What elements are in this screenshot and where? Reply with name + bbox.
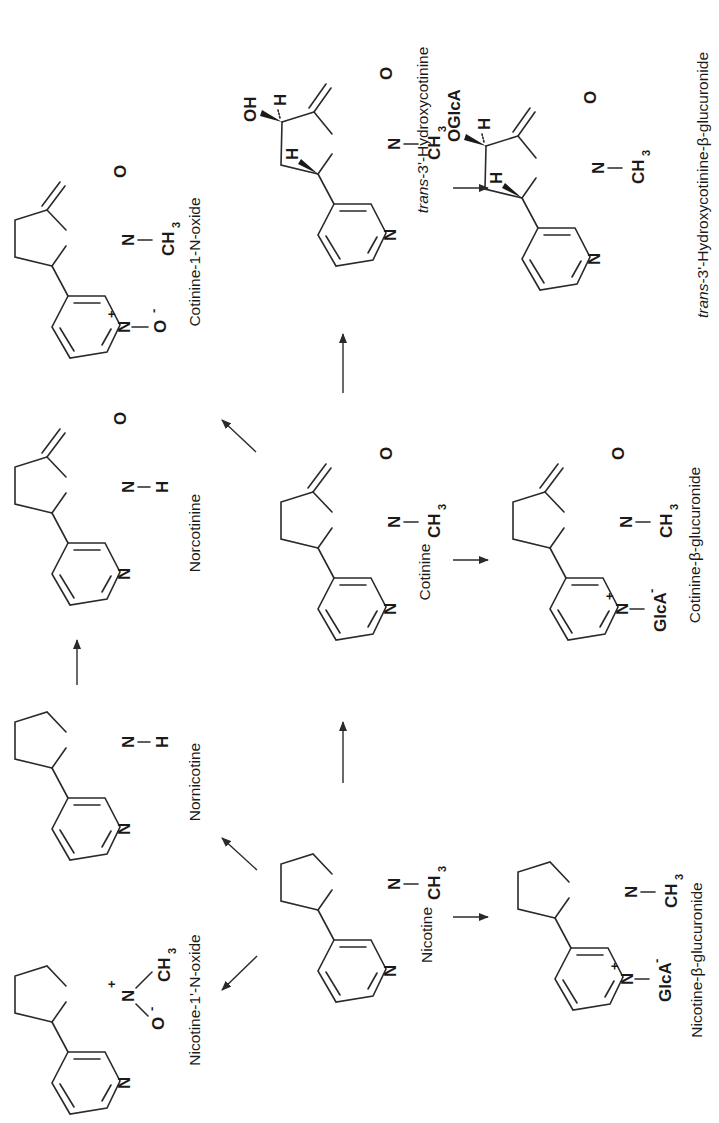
nornicotine-structure: N H N <box>15 712 172 860</box>
svg-text:Cotinine: Cotinine <box>416 544 433 601</box>
svg-text:-: - <box>649 959 664 963</box>
svg-text:+: + <box>607 962 622 970</box>
svg-text:Nicotine-1'-N-oxide: Nicotine-1'-N-oxide <box>186 934 203 1065</box>
cotinine-glucuronide-structure: N CH3 O N + GlcA - <box>513 447 680 640</box>
svg-text:GlcA: GlcA <box>651 592 670 632</box>
svg-text:3: 3 <box>673 874 685 880</box>
svg-text:trans-3'-Hydroxycotinine-β-glu: trans-3'-Hydroxycotinine-β-glucuronide <box>694 52 711 318</box>
svg-text:+: + <box>104 980 119 988</box>
svg-text:N: N <box>385 516 404 528</box>
svg-text:CH: CH <box>629 159 648 184</box>
svg-text:O: O <box>377 447 396 460</box>
cotinine-n-oxide-structure: N CH3 O N + O - <box>15 165 182 358</box>
svg-text:H: H <box>271 94 290 106</box>
label-nicotine-glucuronide: Nicotine-β-glucuronide <box>688 882 705 1037</box>
svg-text:N: N <box>119 736 138 748</box>
svg-text:N: N <box>613 603 632 615</box>
svg-text:N: N <box>617 516 636 528</box>
svg-text:H: H <box>153 736 172 748</box>
svg-text:3: 3 <box>166 948 178 954</box>
svg-text:O: O <box>111 165 130 178</box>
svg-text:CH: CH <box>662 883 681 908</box>
svg-text:Nicotine-β-glucuronide: Nicotine-β-glucuronide <box>688 882 705 1037</box>
svg-text:-: - <box>146 309 161 313</box>
arrow-nicotine-to-nornicotine <box>222 838 257 870</box>
svg-text:Nicotine: Nicotine <box>418 907 435 963</box>
svg-text:GlcA: GlcA <box>656 962 675 1002</box>
svg-text:N: N <box>115 823 134 835</box>
svg-text:N: N <box>385 878 404 890</box>
svg-text:Norcotinine: Norcotinine <box>186 494 203 572</box>
svg-text:CH: CH <box>155 957 174 982</box>
svg-text:O: O <box>151 320 170 333</box>
label-hydroxycotinine-glucuronide: trans-3'-Hydroxycotinine-β-glucuronide <box>694 52 711 318</box>
svg-text:N: N <box>585 253 604 265</box>
svg-text:OGlcA: OGlcA <box>445 89 464 142</box>
svg-text:Cotinine-β-glucuronide: Cotinine-β-glucuronide <box>686 467 703 623</box>
svg-text:N: N <box>589 162 608 174</box>
svg-text:3: 3 <box>436 504 448 510</box>
svg-text:CH: CH <box>657 513 676 538</box>
svg-text:OH: OH <box>241 97 260 123</box>
svg-text:N: N <box>622 886 641 898</box>
svg-text:O: O <box>149 1017 168 1030</box>
svg-text:H: H <box>283 148 302 160</box>
svg-text:N: N <box>115 321 134 333</box>
svg-text:O: O <box>377 67 396 80</box>
svg-text:N: N <box>381 603 400 615</box>
svg-text:H: H <box>153 481 172 493</box>
svg-text:+: + <box>104 310 119 318</box>
svg-text:3: 3 <box>436 866 448 872</box>
svg-text:trans-3'-Hydroxycotinine: trans-3'-Hydroxycotinine <box>414 47 431 214</box>
svg-text:N: N <box>119 990 138 1002</box>
svg-text:CH: CH <box>425 513 444 538</box>
nicotine-n-oxide-structure: N + CH3 O - N <box>15 948 178 1114</box>
label-cotinine-n-oxide: Cotinine-1-N-oxide <box>186 197 203 326</box>
cotinine-structure: N CH3 O N <box>281 447 448 640</box>
label-hydroxycotinine: trans-3'-Hydroxycotinine <box>414 47 431 214</box>
norcotinine-structure: N H O N <box>15 412 172 605</box>
label-nicotine: Nicotine <box>418 907 435 963</box>
nicotine-glucuronide-structure: N CH3 N + GlcA - <box>518 862 685 1010</box>
svg-text:N: N <box>119 234 138 246</box>
svg-text:3: 3 <box>668 504 680 510</box>
svg-text:O: O <box>609 447 628 460</box>
svg-text:N: N <box>385 138 404 150</box>
svg-text:CH: CH <box>425 875 444 900</box>
svg-text:N: N <box>115 1077 134 1089</box>
label-nornicotine: Nornicotine <box>186 743 203 821</box>
svg-text:N: N <box>115 568 134 580</box>
svg-text:3: 3 <box>640 150 652 156</box>
svg-text:H: H <box>475 118 494 130</box>
svg-text:H: H <box>487 172 506 184</box>
arrow-nicotine-to-n-oxide <box>222 956 257 990</box>
svg-text:O: O <box>581 91 600 104</box>
svg-text:-: - <box>144 1007 159 1011</box>
svg-text:N: N <box>618 973 637 985</box>
svg-text:N: N <box>119 481 138 493</box>
arrow-cotinine-to-norcotinine <box>222 420 256 452</box>
svg-text:N: N <box>381 965 400 977</box>
svg-text:CH: CH <box>159 231 178 256</box>
svg-text:O: O <box>111 412 130 425</box>
label-norcotinine: Norcotinine <box>186 494 203 572</box>
svg-text:-: - <box>644 589 659 593</box>
svg-text:3: 3 <box>170 222 182 228</box>
label-cotinine: Cotinine <box>416 544 433 601</box>
svg-text:Cotinine-1-N-oxide: Cotinine-1-N-oxide <box>186 197 203 326</box>
label-cotinine-glucuronide: Cotinine-β-glucuronide <box>686 467 703 623</box>
svg-text:Nornicotine: Nornicotine <box>186 743 203 821</box>
svg-text:+: + <box>602 592 617 600</box>
metabolism-diagram: N CH3 O N + O - Cotinine-1-N-oxide N H O… <box>0 0 719 1123</box>
svg-text:N: N <box>381 229 400 241</box>
hydroxycotinine-glucuronide-structure: N CH3 O H OGlcA H N <box>445 89 652 290</box>
label-nicotine-n-oxide: Nicotine-1'-N-oxide <box>186 934 203 1065</box>
